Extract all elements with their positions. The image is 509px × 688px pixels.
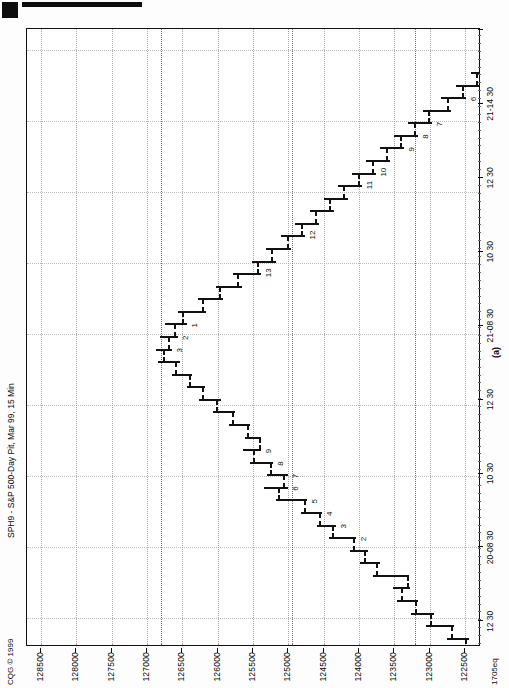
time-axis-minor-tick xyxy=(478,35,481,36)
time-axis-minor-tick xyxy=(478,106,481,107)
time-axis-minor-tick xyxy=(478,288,481,289)
price-axis-label: 126500 xyxy=(176,652,186,688)
time-axis-minor-tick xyxy=(478,540,481,541)
time-axis-label: 21-14 30 xyxy=(485,87,495,121)
ohlc-close-tick xyxy=(283,483,285,487)
ohlc-open-tick xyxy=(462,87,464,91)
time-axis-minor-tick xyxy=(478,556,481,557)
time-axis-minor-tick xyxy=(478,280,481,281)
time-axis-minor-tick xyxy=(478,430,481,431)
time-axis-label: 12 30 xyxy=(485,389,495,410)
ohlc-bar xyxy=(329,537,356,539)
wave-count-label: 9 xyxy=(408,147,416,151)
ohlc-open-tick xyxy=(430,615,432,619)
time-axis-minor-tick xyxy=(478,351,481,352)
wave-count-label: 8 xyxy=(422,134,430,138)
ohlc-open-tick xyxy=(253,451,255,455)
ohlc-bar xyxy=(441,97,466,99)
wave-count-label: 1 xyxy=(191,323,199,327)
ohlc-close-tick xyxy=(364,558,366,562)
time-axis-minor-tick xyxy=(478,193,481,194)
ohlc-open-tick xyxy=(163,351,165,355)
ohlc-open-tick xyxy=(400,137,402,141)
wave-count-label: 7 xyxy=(292,474,300,478)
gridline-horizontal xyxy=(465,29,466,645)
wave-count-label: 13 xyxy=(265,268,273,277)
price-axis-label: 123000 xyxy=(424,652,434,688)
scroll-block-icon[interactable] xyxy=(2,2,18,18)
time-axis-minor-tick xyxy=(478,114,481,115)
ohlc-close-tick xyxy=(232,420,234,424)
time-axis-minor-tick xyxy=(478,232,481,233)
time-axis-minor-tick xyxy=(478,643,481,644)
ohlc-close-tick xyxy=(401,596,403,600)
time-axis-minor-tick xyxy=(478,98,481,99)
wave-count-label: 11 xyxy=(366,181,374,189)
ohlc-close-tick xyxy=(343,194,345,198)
ohlc-open-tick xyxy=(271,250,273,254)
time-axis-tick xyxy=(478,473,483,474)
ohlc-open-tick xyxy=(414,124,416,128)
ohlc-close-tick xyxy=(376,571,378,575)
ohlc-bar xyxy=(373,575,409,577)
time-axis-minor-tick xyxy=(478,611,481,612)
ohlc-close-tick xyxy=(189,382,191,386)
ohlc-close-tick xyxy=(415,609,417,613)
time-axis-minor-tick xyxy=(478,303,481,304)
ohlc-bar xyxy=(394,135,418,137)
time-axis-minor-tick xyxy=(478,564,481,565)
time-axis-minor-tick xyxy=(478,454,481,455)
scrollbar-icon[interactable] xyxy=(22,2,142,7)
wave-count-label: 12 xyxy=(309,231,317,240)
time-axis-minor-tick xyxy=(478,390,481,391)
ohlc-bar xyxy=(295,223,319,225)
ohlc-close-tick xyxy=(414,131,416,135)
ohlc-open-tick xyxy=(465,640,467,644)
ohlc-close-tick xyxy=(329,206,331,210)
time-axis-minor-tick xyxy=(478,469,481,470)
ohlc-open-tick xyxy=(259,439,261,443)
ohlc-close-tick xyxy=(247,433,249,437)
time-axis-minor-tick xyxy=(478,485,481,486)
sequence-tag: 1705eq xyxy=(490,658,499,685)
ohlc-bar xyxy=(408,122,432,124)
plot-area[interactable]: 2345678932113121110987654321 xyxy=(27,29,479,645)
ohlc-bar xyxy=(276,499,307,501)
wave-count-label: 2 xyxy=(182,336,190,340)
ohlc-bar xyxy=(264,487,288,489)
wave-count-label: 4 xyxy=(326,512,334,516)
time-axis-minor-tick xyxy=(478,90,481,91)
time-axis-minor-tick xyxy=(478,82,481,83)
ohlc-close-tick xyxy=(332,533,334,537)
vendor-logo: CQG © 1999 xyxy=(6,639,15,685)
time-axis-minor-tick xyxy=(478,201,481,202)
ohlc-open-tick xyxy=(232,413,234,417)
price-axis-label: 128500 xyxy=(35,652,45,688)
ohlc-close-tick xyxy=(216,407,218,411)
time-axis-minor-tick xyxy=(478,327,481,328)
ohlc-open-tick xyxy=(447,99,449,103)
time-axis-minor-tick xyxy=(478,572,481,573)
ohlc-open-tick xyxy=(343,187,345,191)
time-axis-label: 21-08 30 xyxy=(485,309,495,343)
ohlc-close-tick xyxy=(407,583,409,587)
time-axis-minor-tick xyxy=(478,67,481,68)
ohlc-close-tick xyxy=(462,93,464,97)
time-axis-minor-tick xyxy=(478,296,481,297)
ohlc-close-tick xyxy=(315,219,317,223)
ohlc-open-tick xyxy=(270,464,272,468)
ohlc-open-tick xyxy=(219,288,221,292)
time-axis-tick xyxy=(478,177,483,178)
price-axis-label: 125500 xyxy=(247,652,257,688)
time-axis-minor-tick xyxy=(478,359,481,360)
time-axis-minor-tick xyxy=(478,588,481,589)
ohlc-close-tick xyxy=(430,621,432,625)
gridline-session-break xyxy=(292,29,293,645)
wave-count-label: 8 xyxy=(277,461,285,465)
ohlc-open-tick xyxy=(329,200,331,204)
ohlc-close-tick xyxy=(253,458,255,462)
ohlc-bar xyxy=(380,147,404,149)
ohlc-close-tick xyxy=(237,282,239,286)
time-axis: 12 3020-08 3010 3012 3021-08 3010 3012 3… xyxy=(478,30,506,646)
gridline-horizontal xyxy=(359,29,360,645)
